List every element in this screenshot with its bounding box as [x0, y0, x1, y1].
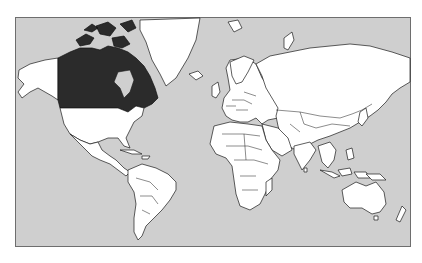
hispaniola — [142, 156, 150, 159]
svalbard — [228, 20, 242, 32]
novaya-zemlya — [284, 32, 294, 50]
new-guinea — [366, 174, 386, 180]
united-states — [60, 106, 144, 148]
sri-lanka — [304, 168, 307, 172]
iceland — [189, 71, 203, 80]
alaska — [18, 58, 58, 100]
world-map — [0, 0, 422, 263]
philippines — [346, 148, 354, 160]
indonesia — [320, 168, 370, 178]
southeast-asia — [318, 142, 336, 168]
uk — [212, 82, 220, 98]
canada[interactable] — [58, 46, 158, 112]
canada-arctic-islands[interactable] — [76, 20, 136, 48]
india — [294, 142, 316, 170]
cuba — [120, 150, 142, 154]
tasmania — [374, 216, 378, 220]
south-america — [128, 164, 176, 240]
australia — [342, 182, 386, 214]
new-zealand — [396, 206, 406, 222]
